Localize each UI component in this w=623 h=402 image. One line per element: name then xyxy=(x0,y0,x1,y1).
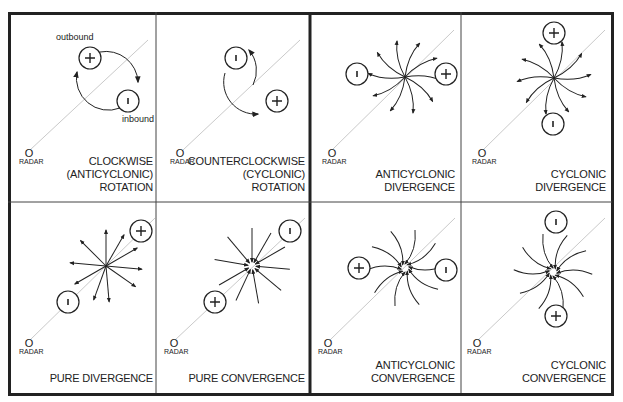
anticyclonic-convergence-diagram xyxy=(366,230,445,306)
anticyclonic-divergence-diagram xyxy=(368,41,442,113)
radar-marker: ORADAR xyxy=(19,338,39,356)
panel-label-pure-convergence: PURE CONVERGENCE xyxy=(160,372,305,385)
cyclonic-divergence-diagram xyxy=(517,42,591,114)
panel-label-counterclockwise: COUNTERCLOCKWISE(CYCLONIC)ROTATION xyxy=(160,155,305,194)
radar-marker: ORADAR xyxy=(318,338,338,356)
grid-dividers xyxy=(8,12,612,393)
diagram-canvas xyxy=(0,0,623,402)
outbound-annotation: outbound xyxy=(56,32,94,42)
panel-label-cyclonic-divergence: CYCLONICDIVERGENCE xyxy=(466,168,606,194)
panel-label-clockwise: CLOCKWISE(ANTICYCLONIC)ROTATION xyxy=(13,155,153,194)
radar-marker: ORADAR xyxy=(467,338,487,356)
radar-marker: ORADAR xyxy=(164,338,184,356)
panel-label-pure-divergence: PURE DIVERGENCE xyxy=(13,372,153,385)
panel-label-anticyclonic-convergence: ANTICYCLONICCONVERGENCE xyxy=(315,359,455,385)
radar-marker: ORADAR xyxy=(322,148,342,166)
panel-label-cyclonic-convergence: CYCLONICCONVERGENCE xyxy=(466,359,606,385)
inbound-annotation: inbound xyxy=(122,114,154,124)
radar-marker: ORADAR xyxy=(472,148,492,166)
counterclockwise-rotation-diagram xyxy=(224,47,288,114)
panel-label-anticyclonic-divergence: ANTICYCLONICDIVERGENCE xyxy=(315,168,455,194)
cyclonic-convergence-diagram xyxy=(514,234,593,310)
